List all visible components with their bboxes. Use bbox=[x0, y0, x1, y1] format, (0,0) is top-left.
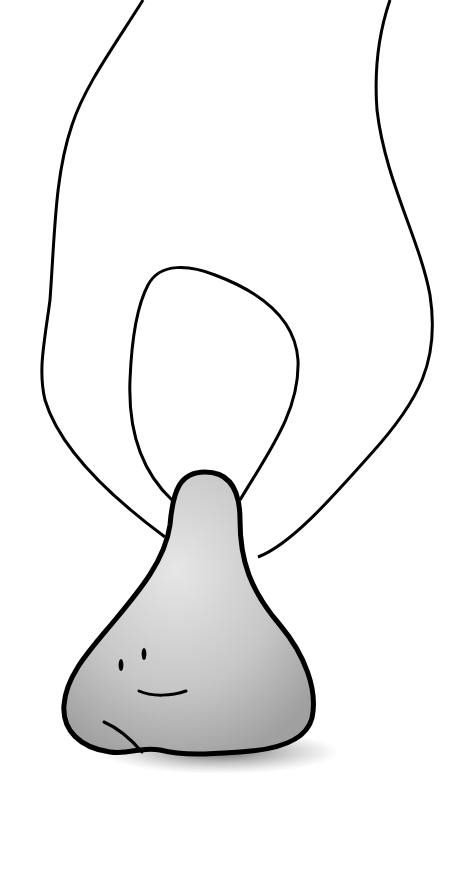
illustration-canvas bbox=[0, 0, 456, 876]
finger-loop bbox=[130, 267, 298, 500]
nose-body bbox=[64, 472, 314, 754]
right-eye bbox=[142, 648, 147, 660]
hand-outline-right bbox=[258, 0, 433, 557]
left-eye bbox=[119, 659, 124, 671]
hand-outline-left bbox=[42, 0, 165, 537]
